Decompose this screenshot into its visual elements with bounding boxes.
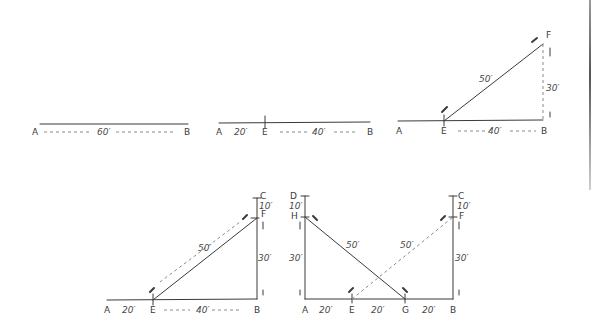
line-ab [398,120,543,121]
line-ef [153,218,257,300]
figure-3: A E 40′ B F 50′ 30′ [396,30,560,136]
point-h-label: H [291,211,298,221]
figure-5: A 20′ E 20′ G 20′ B D 10′ H 30′ C 10′ F … [289,191,471,315]
point-d-label: D [290,191,297,201]
tape-mark-f [441,216,445,220]
dim-bf-label: 30′ [258,253,272,263]
line-gh [305,217,405,299]
point-e-label: E [150,305,156,315]
tape-mark-e [442,107,447,112]
point-a-label: A [302,305,309,315]
line-ab [107,299,257,300]
dim-hd-label: 10′ [289,201,303,211]
tape-mark-e [150,288,154,292]
point-b-label: B [254,305,260,315]
point-f-label: F [261,209,266,219]
tape-mark-h [313,216,317,220]
dim-eg-label: 20′ [371,305,385,315]
point-a-label: A [104,305,111,315]
point-a-label: A [396,126,403,136]
point-b-label: B [367,127,373,137]
point-a-label: A [32,127,39,137]
dim-fc-label: 10′ [457,201,471,211]
dim-bf-label: 30′ [546,83,560,93]
figure-1: A 60′ B [32,124,190,137]
dim-ef-label: 50′ [198,243,212,253]
dim-eb-label: 40′ [488,126,502,136]
dim-ef-label: 50′ [479,74,493,84]
point-f-label: F [459,211,464,221]
dim-ae-label: 20′ [234,127,248,137]
point-a-label: A [216,127,223,137]
point-e-label: E [349,305,355,315]
point-b-label: B [184,127,190,137]
point-c-label: C [458,191,464,201]
point-f-label: F [546,30,551,40]
point-b-label: B [541,126,547,136]
line-ab [219,122,370,123]
dim-ae-label: 20′ [319,305,333,315]
diagram-canvas: A 60′ B A 20′ E 40′ B A E 40′ B F 50′ 30… [0,0,592,329]
dim-ab-label: 60′ [97,127,111,137]
point-e-label: E [262,127,268,137]
figure-2: A 20′ E 40′ B [216,116,373,137]
tape-mark-f [243,215,247,219]
tape-mark-f [532,38,537,42]
dim-eb-label: 40′ [312,127,326,137]
line-ef [444,44,543,121]
figure-4: A 20′ E 40′ B C 10′ F 50′ 30′ [104,191,273,315]
point-c-label: C [260,191,266,201]
dim-ef-label: 50′ [400,240,414,250]
point-b-label: B [450,305,456,315]
dim-ae-label: 20′ [122,305,136,315]
point-g-label: G [402,305,409,315]
dim-gh-label: 50′ [346,240,360,250]
dim-bf-label: 30′ [455,253,469,263]
tape-mark-e [349,288,353,292]
dim-gb-label: 20′ [422,305,436,315]
tape-mark-g [403,288,407,292]
dim-eb-label: 40′ [196,305,210,315]
dim-ah-label: 30′ [289,253,303,263]
line-ef [352,217,453,299]
point-e-label: E [441,126,447,136]
